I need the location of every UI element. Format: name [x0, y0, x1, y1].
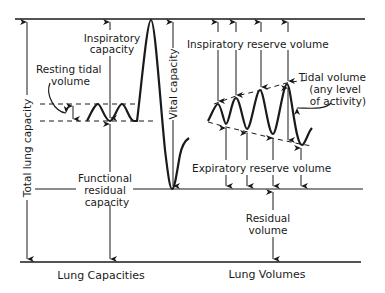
tidal-volume-label: Tidal volume — [298, 71, 366, 83]
functional-residual-label-2: residual — [84, 184, 126, 196]
inspiratory-reserve-volume-label: Inspiratory reserve volume — [187, 38, 329, 50]
lung-capacities-caption: Lung Capacities — [57, 269, 145, 282]
vital-capacity-label: Vital capacity — [167, 48, 179, 119]
resting-tidal-label-2: volume — [51, 75, 90, 87]
functional-residual-label-3: capacity — [85, 196, 129, 208]
residual-volume-label: Residual — [246, 212, 290, 224]
lung-volumes-caption: Lung Volumes — [229, 268, 306, 281]
resting-tidal-pointer — [49, 83, 66, 113]
tidal-volume-label-3: of activity) — [310, 95, 366, 107]
resting-tidal-label: Resting tidal — [36, 63, 102, 75]
residual-volume-label-2: volume — [249, 224, 288, 236]
total-lung-capacity-label: Total lung capacity — [21, 99, 33, 198]
expiratory-reserve-volume-label: Expiratory reserve volume — [192, 162, 331, 174]
spirometry-trace-right — [208, 84, 312, 145]
tidal-volume-label-2: (any level — [309, 83, 361, 95]
inspiratory-capacity-label-2: capacity — [90, 43, 134, 55]
functional-residual-label: Functional — [78, 172, 132, 184]
lung-volumes-diagram: Inspiratory capacity Resting tidal volum… — [0, 0, 385, 293]
